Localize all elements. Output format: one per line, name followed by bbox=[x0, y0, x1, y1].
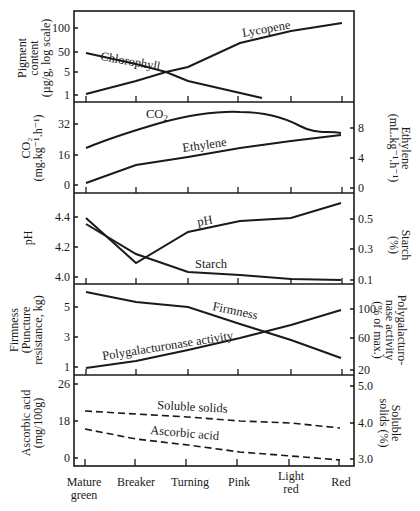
xlabel-red: Red bbox=[331, 475, 350, 489]
chart-frame bbox=[74, 11, 354, 466]
series-ph bbox=[86, 203, 341, 263]
y2tick-0.1: 0.1 bbox=[358, 273, 373, 287]
xlabel-light-red-2: red bbox=[283, 482, 298, 496]
ytick-1: 1 bbox=[64, 360, 70, 374]
ytick-5: 5 bbox=[64, 65, 70, 79]
y2label-pg-3: (% of max.) bbox=[371, 301, 385, 359]
x-axis-categories: Mature green Breaker Turning Pink Light … bbox=[67, 469, 351, 502]
y2tick-3.0: 3.0 bbox=[358, 452, 373, 466]
ytick-100: 100 bbox=[52, 21, 70, 35]
y2tick-0.5: 0.5 bbox=[358, 212, 373, 226]
xlabel-pink: Pink bbox=[228, 475, 250, 489]
ylabel-ascorbic-2: (mg/100g) bbox=[31, 398, 45, 449]
label-ph: pH bbox=[196, 213, 213, 229]
ripening-chart: 100 50 5 1 Pigment content (µg/g, log sc… bbox=[0, 0, 420, 511]
ylabel-firmness-3: resistance, kg) bbox=[31, 295, 45, 364]
y2tick-4: 4 bbox=[358, 151, 364, 165]
ytick-18: 18 bbox=[58, 414, 70, 428]
ytick-50: 50 bbox=[58, 45, 70, 59]
y2tick-5.0: 5.0 bbox=[358, 379, 373, 393]
panel-firmness: 5 3 1 100 60 20 Firmness (Puncture resis… bbox=[7, 292, 409, 377]
label-co2: CO2 bbox=[146, 107, 168, 123]
xlabel-light-red-1: Light bbox=[278, 469, 305, 483]
ylabel-ph: pH bbox=[21, 230, 35, 245]
ytick-32: 32 bbox=[58, 117, 70, 131]
label-starch: Starch bbox=[195, 257, 228, 271]
ytick-4.4: 4.4 bbox=[55, 210, 70, 224]
ytick-1: 1 bbox=[64, 88, 70, 102]
panel-pigment: 100 50 5 1 Pigment content (µg/g, log sc… bbox=[15, 18, 342, 102]
ytick-4.2: 4.2 bbox=[55, 240, 70, 254]
y2tick-0.3: 0.3 bbox=[358, 242, 373, 256]
y2tick-60: 60 bbox=[358, 331, 370, 345]
ytick-26: 26 bbox=[58, 377, 70, 391]
ytick-0: 0 bbox=[64, 178, 70, 192]
ylabel-co2-2: (mg.kg⁻¹.h⁻¹) bbox=[31, 114, 45, 181]
y2label-solids-2: solids (%) bbox=[377, 399, 391, 448]
ytick-4.0: 4.0 bbox=[55, 270, 70, 284]
y2label-ethylene-2: (mL.kg⁻¹.h⁻¹) bbox=[387, 114, 401, 183]
y2label-starch-2: (%) bbox=[387, 236, 401, 254]
label-soluble-solids: Soluble solids bbox=[157, 398, 228, 416]
xlabel-turning: Turning bbox=[171, 475, 209, 489]
label-firmness: Firmness bbox=[211, 299, 259, 322]
ytick-0: 0 bbox=[64, 451, 70, 465]
y2tick-4.0: 4.0 bbox=[358, 416, 373, 430]
y2tick-0: 0 bbox=[358, 181, 364, 195]
ytick-3: 3 bbox=[64, 330, 70, 344]
ytick-5: 5 bbox=[64, 300, 70, 314]
xlabel-mature-green-2: green bbox=[71, 488, 98, 502]
ytick-16: 16 bbox=[58, 148, 70, 162]
xlabel-mature-green-1: Mature bbox=[67, 475, 102, 489]
y2tick-20: 20 bbox=[358, 363, 370, 377]
xlabel-breaker: Breaker bbox=[117, 475, 155, 489]
ylabel-pigment-3: (µg/g, log scale) bbox=[39, 19, 53, 98]
label-ascorbic-acid: Ascorbic acid bbox=[150, 423, 221, 443]
y2tick-8: 8 bbox=[358, 121, 364, 135]
label-chlorophyll: Chlorophyll bbox=[99, 49, 161, 73]
label-pg-activity: Polygalacturonase activity bbox=[101, 328, 235, 363]
